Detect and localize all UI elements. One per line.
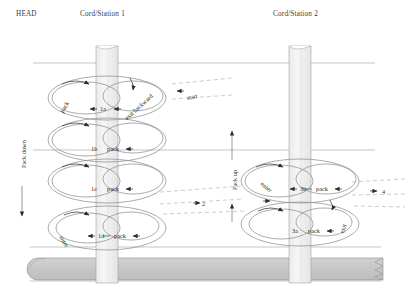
header-cord-station-2: Cord/Station 2 bbox=[273, 10, 318, 18]
label-step-1c: 1c bbox=[91, 185, 97, 192]
label-pack-3a: pack bbox=[308, 227, 320, 234]
cord-band-station-1 bbox=[96, 46, 118, 283]
cord-band-station-2 bbox=[289, 46, 311, 283]
label-pack-down: Pack down bbox=[20, 140, 27, 168]
label-pack-1d: pack bbox=[114, 232, 126, 239]
label-step-1d: 1d bbox=[98, 232, 104, 239]
label-step-1b: 1b bbox=[91, 145, 97, 152]
label-step-2: 2 bbox=[202, 200, 205, 207]
dashed-cord-start bbox=[172, 78, 232, 99]
header-cord-station-1: Cord/Station 1 bbox=[80, 10, 125, 18]
label-pack-up: Pack up bbox=[231, 170, 238, 190]
header-head: HEAD bbox=[16, 10, 37, 18]
label-step-3a: 3a bbox=[292, 227, 298, 234]
label-pack-1c: pack bbox=[107, 185, 119, 192]
label-pack-1b: pack bbox=[107, 145, 119, 152]
diagram-canvas: HEAD Cord/Station 1 Cord/Station 2 Pack … bbox=[0, 0, 411, 296]
label-step-4: 4 bbox=[382, 188, 385, 195]
label-step-1a: 1a bbox=[100, 105, 106, 112]
label-step-3b: 3b bbox=[300, 185, 306, 192]
label-pack-3b: pack bbox=[316, 185, 328, 192]
sewing-diagram-illustration bbox=[0, 0, 411, 296]
cover-board bbox=[27, 258, 383, 280]
dashed-cord-four bbox=[352, 179, 405, 207]
